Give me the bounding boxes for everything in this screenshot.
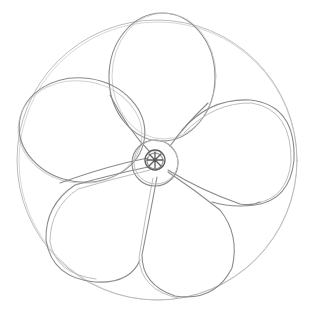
flower-center	[132, 140, 178, 186]
flower-sketch	[0, 0, 312, 322]
petal-top	[109, 13, 216, 152]
petal-upper-left	[12, 70, 152, 191]
petal-lower-left	[46, 167, 150, 282]
petal-right	[168, 100, 294, 206]
petal-lower-right	[139, 172, 234, 298]
